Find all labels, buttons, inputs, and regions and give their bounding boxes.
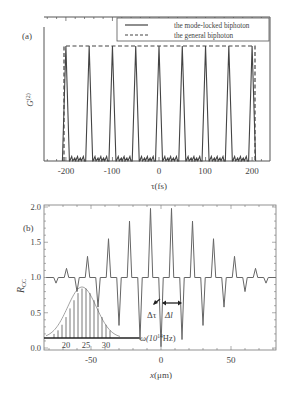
inset-axis-label: ω(1014Hz) <box>140 333 176 343</box>
svg-text:50: 50 <box>227 355 237 365</box>
panel-b-ylabel: RCC <box>15 279 27 294</box>
rcc-curve <box>46 208 276 346</box>
svg-text:25: 25 <box>82 340 91 350</box>
svg-text:0: 0 <box>157 166 162 176</box>
panel-b-label: (b) <box>23 223 34 233</box>
delta-l-right-arrowhead-icon <box>178 301 182 306</box>
svg-text:-200: -200 <box>58 166 75 176</box>
panel-a: the mode-locked biphoton the general bip… <box>22 17 270 191</box>
panel-a-label: (a) <box>22 31 32 41</box>
svg-text:30: 30 <box>102 340 111 350</box>
svg-text:0.0: 0.0 <box>30 343 41 353</box>
svg-text:G(2): G(2) <box>25 93 35 107</box>
delta-annotations: Δτ Δl <box>147 299 182 320</box>
svg-text:0.5: 0.5 <box>30 308 41 318</box>
panel-b-xtick-labels: -50 0 50 <box>85 355 236 365</box>
svg-text:RCC: RCC <box>15 279 27 294</box>
spectrum-inset <box>46 287 120 338</box>
panel-b-xlabel: x(μm) <box>149 370 172 380</box>
legend-dashed-label: the general biphoton <box>174 32 233 40</box>
svg-text:20: 20 <box>62 340 71 350</box>
svg-text:100: 100 <box>198 166 212 176</box>
panel-a-ylabel: G(2) <box>25 93 35 107</box>
panel-b: Δτ Δl ω(1014Hz) 20 25 30 (b) RCC 0.0 0.5… <box>15 202 276 380</box>
svg-text:1.5: 1.5 <box>30 237 41 247</box>
svg-text:-100: -100 <box>104 166 121 176</box>
panel-a-legend: the mode-locked biphoton the general bip… <box>117 18 269 41</box>
legend-solid-label: the mode-locked biphoton <box>174 22 250 30</box>
svg-text:-50: -50 <box>85 355 97 365</box>
figure: the mode-locked biphoton the general bip… <box>0 0 292 394</box>
svg-text:1.0: 1.0 <box>30 272 41 282</box>
svg-text:0: 0 <box>159 355 164 365</box>
delta-l-label: Δl <box>164 310 173 320</box>
inset-tick-labels: 20 25 30 <box>62 340 111 350</box>
panel-a-xtick-labels: -200 -100 0 100 200 <box>58 166 260 176</box>
panel-a-xlabel: τ(fs) <box>151 181 167 191</box>
delta-tau-label: Δτ <box>147 310 157 320</box>
svg-text:2.0: 2.0 <box>30 202 41 212</box>
mode-locked-biphoton-curve <box>62 46 255 161</box>
svg-text:200: 200 <box>245 166 259 176</box>
